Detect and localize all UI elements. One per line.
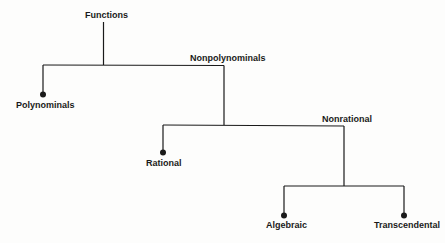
- leaf-dot-rational: [160, 150, 166, 156]
- leaf-dot-algebraic: [281, 213, 287, 219]
- leaf-dot-polynominals: [40, 92, 46, 98]
- node-label-nonpolynominals: Nonpolynominals: [190, 53, 266, 63]
- node-label-transcendental: Transcendental: [374, 220, 440, 230]
- node-label-functions: Functions: [85, 10, 128, 20]
- node-label-rational: Rational: [146, 158, 182, 168]
- node-label-polynominals: Polynominals: [16, 100, 75, 110]
- connector-nonpolynominals-bar: [163, 125, 344, 126]
- tree-lines: [0, 0, 445, 243]
- connector-functions-bar: [43, 65, 224, 66]
- node-label-algebraic: Algebraic: [266, 220, 307, 230]
- leaf-dot-transcendental: [401, 213, 407, 219]
- node-label-nonrational: Nonrational: [322, 114, 372, 124]
- classification-tree-diagram: Functions Nonpolynominals Polynominals R…: [0, 0, 445, 243]
